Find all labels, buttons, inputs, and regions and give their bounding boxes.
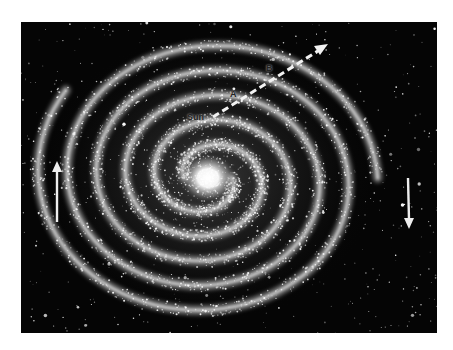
sun-label: Sun <box>187 112 204 122</box>
galaxy-image: Sun A B <box>21 22 437 333</box>
point-b-label: B <box>266 63 273 73</box>
galactic-core <box>178 152 238 204</box>
arrow-down-icon <box>404 178 414 229</box>
point-a-label: A <box>230 89 237 99</box>
galaxy-svg <box>21 22 437 333</box>
